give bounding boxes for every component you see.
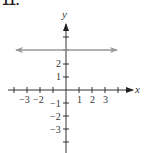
x-tick-label: −3 (19, 94, 30, 105)
x-tick-label: 1 (77, 94, 82, 105)
coordinate-plane: y x −3 −2 1 2 3 2 1 −1 −2 −3 (0, 0, 145, 153)
y-axis (63, 24, 69, 153)
y-tick-label: 2 (56, 58, 61, 69)
x-axis (8, 87, 133, 93)
y-tick-label: −1 (50, 98, 61, 109)
x-tick-label: 2 (90, 94, 95, 105)
y-axis-label: y (61, 8, 67, 20)
x-tick-label: −2 (33, 94, 44, 105)
y-tick-label: −3 (50, 124, 61, 135)
x-tick-label: 3 (103, 94, 108, 105)
y-tick-label: 1 (56, 71, 61, 82)
y-tick-label: −2 (50, 111, 61, 122)
x-axis-label: x (134, 83, 140, 95)
